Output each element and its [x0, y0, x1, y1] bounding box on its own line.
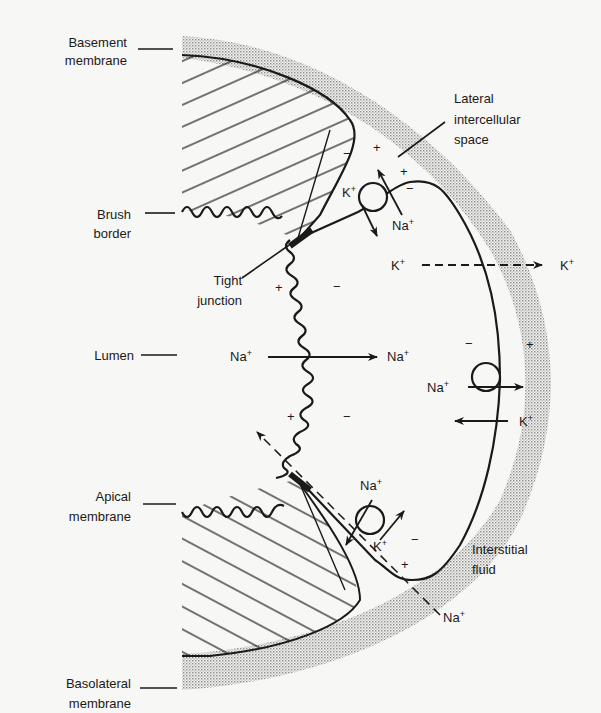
svg-text:+: + [275, 280, 283, 295]
svg-text:−: − [411, 532, 419, 547]
label-lateral-1: Lateral [454, 91, 494, 106]
ion-k-leak-end: K+ [560, 257, 574, 273]
label-interstitial-2: fluid [472, 562, 496, 577]
brush-border-central [276, 240, 313, 478]
svg-text:−: − [343, 409, 351, 424]
svg-text:+: + [373, 140, 381, 155]
label-tight-2: junction [196, 293, 242, 308]
ion-na-lower-pump: Na+ [360, 477, 382, 493]
svg-text:−: − [406, 181, 414, 196]
label-basement-1: Basement [68, 35, 127, 50]
label-basolateral-1: Basolateral [66, 676, 131, 691]
label-brush-1: Brush [97, 207, 131, 222]
svg-text:−: − [465, 336, 473, 351]
label-brush-2: border [93, 226, 131, 241]
svg-text:+: + [526, 337, 534, 352]
label-basement-2: membrane [65, 53, 127, 68]
svg-text:+: + [400, 164, 408, 179]
svg-text:−: − [343, 146, 351, 161]
ion-na-lumen: Na+ [230, 348, 252, 364]
ion-na-upper: Na+ [392, 217, 414, 233]
label-interstitial-1: Interstitial [472, 542, 528, 557]
ion-k-lower-pump: K+ [373, 538, 387, 554]
ion-k-leak-start: K+ [391, 257, 405, 273]
label-lateral-2: intercellular [454, 112, 521, 127]
ion-na-cell: Na+ [387, 348, 409, 364]
svg-text:+: + [401, 557, 409, 572]
label-tight-1: Tight [214, 273, 243, 288]
epithelium-diagram: Basement membrane Lateral intercellular … [0, 0, 601, 713]
label-lumen: Lumen [94, 348, 134, 363]
svg-text:+: + [287, 409, 295, 424]
ion-k-upper: K+ [342, 184, 356, 200]
svg-text:−: − [333, 279, 341, 294]
ion-na-paracellular: Na+ [443, 609, 465, 625]
label-lateral-3: space [454, 132, 489, 147]
label-apical-1: Apical [96, 489, 132, 504]
central-cell-basolateral [300, 181, 500, 580]
label-basolateral-2: membrane [69, 696, 131, 711]
ion-na-right-pump: Na+ [427, 379, 449, 395]
label-apical-2: membrane [69, 509, 131, 524]
